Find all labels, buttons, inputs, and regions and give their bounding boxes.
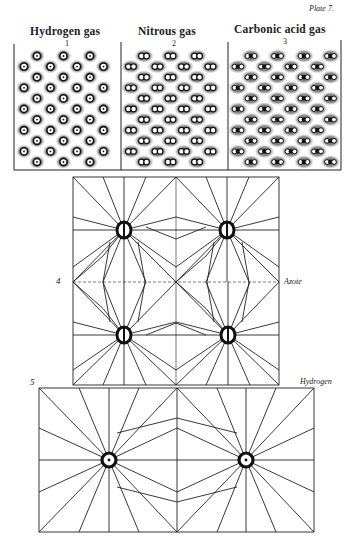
plate-illustration <box>0 0 357 546</box>
panel-1-number: 1 <box>65 39 69 48</box>
hydrogen-gas-particles <box>16 49 112 169</box>
panel-2-number: 2 <box>172 39 176 48</box>
panel-1-title: Hydrogen gas <box>30 25 100 37</box>
figure-4-label: Azote <box>284 277 302 286</box>
nitrous-gas-particles <box>121 49 221 169</box>
figure-4-number: 4 <box>56 276 61 286</box>
figure-5-number: 5 <box>30 377 35 387</box>
panel-3-title: Carbonic acid gas <box>234 23 326 35</box>
panel-2-title: Nitrous gas <box>138 25 196 37</box>
plate-label: Plate 7. <box>309 4 334 13</box>
figure-5-label: Hydrogen <box>300 377 332 386</box>
figure-4-azote-diagram <box>73 177 279 385</box>
figure-5-hydrogen-diagram <box>39 388 314 532</box>
carbonic-acid-gas-particles <box>228 49 341 169</box>
panel-3-number: 3 <box>283 37 287 46</box>
